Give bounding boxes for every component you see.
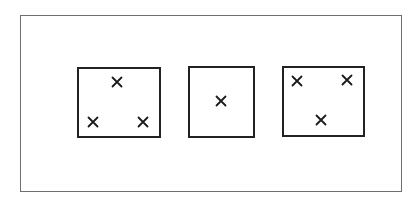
- x-mark-icon: [137, 116, 149, 128]
- x-mark-icon: [315, 114, 327, 126]
- x-mark-icon: [215, 95, 227, 107]
- x-mark-icon: [291, 75, 303, 87]
- x-mark-icon: [111, 76, 123, 88]
- x-mark-icon: [87, 116, 99, 128]
- x-mark-icon: [341, 74, 353, 86]
